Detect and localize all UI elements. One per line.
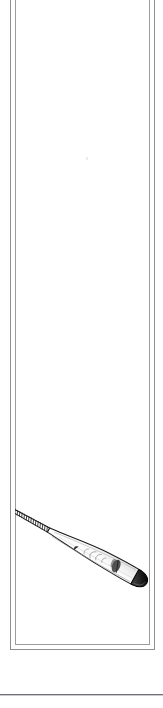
scan-speck-artifact [86, 157, 88, 160]
page-root: baseball bat [0, 0, 163, 708]
bat-body-group [15, 494, 150, 591]
baseball-bat-drawing [15, 435, 150, 650]
page-bottom-rule-shadow [0, 695, 163, 696]
bat-grain-line-center [58, 537, 132, 578]
baseball-bat-illustration [15, 435, 150, 650]
bat-barrel [45, 522, 141, 586]
